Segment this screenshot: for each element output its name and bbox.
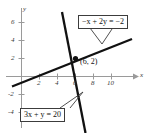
y-tick-label-neg4: -4 [8,109,14,116]
y-tick-label-neg2: -2 [8,91,14,98]
intersection-point-label: (6, 2) [80,58,97,66]
coordinate-graph-figure: y x 6 4 2 -2 -4 2 4 6 8 10 (6, 2) −x + 2… [0,0,147,133]
line-steep [62,12,86,133]
y-axis-label: y [23,6,26,13]
x-tick-label-4: 4 [55,80,59,87]
y-tick-label-2: 2 [11,55,15,62]
equation-callout-line1: −x + 2y = −2 [78,15,128,29]
y-tick-label-6: 6 [11,19,15,26]
x-tick-label-10: 10 [107,80,114,87]
x-tick-label-2: 2 [37,80,41,87]
intersection-point-dot [73,56,78,61]
callout-leader-top [90,28,112,44]
equation-callout-line2: 3x + y = 20 [20,108,65,122]
y-tick-label-4: 4 [11,37,15,44]
x-tick-label-8: 8 [91,80,95,87]
x-axis-arrow [133,74,139,80]
x-tick-label-6: 6 [73,80,77,87]
x-axis-label: x [140,72,143,79]
